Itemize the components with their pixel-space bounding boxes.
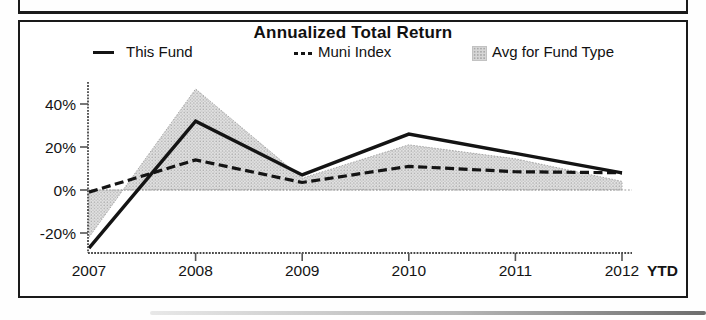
chart-canvas: -20%0%20%40%200720082009201020112012YTD (20, 22, 686, 296)
x-tick-label: 2007 (72, 262, 106, 279)
x-tick-label: 2011 (499, 262, 532, 279)
x-tick-label: 2012 (605, 262, 639, 279)
y-tick-label: 0% (54, 182, 77, 199)
x-tick-label: 2010 (392, 262, 427, 279)
avg-fund-type-area-layer (89, 89, 622, 237)
previous-section-box-edge (18, 0, 688, 14)
x-tick-label: 2009 (285, 262, 319, 279)
x-axis-ytd-label: YTD (647, 262, 678, 279)
avg-fund-type-area (89, 89, 622, 237)
y-tick-label: 20% (45, 139, 76, 156)
x-tick-label: 2008 (178, 262, 212, 279)
next-section-box-edge (150, 311, 706, 315)
scanned-fund-report-page: Annualized Total Return This Fund Muni I… (0, 0, 706, 320)
y-tick-label: 40% (45, 96, 76, 113)
y-tick-label: -20% (40, 225, 76, 242)
annualized-total-return-panel: Annualized Total Return This Fund Muni I… (18, 20, 688, 298)
